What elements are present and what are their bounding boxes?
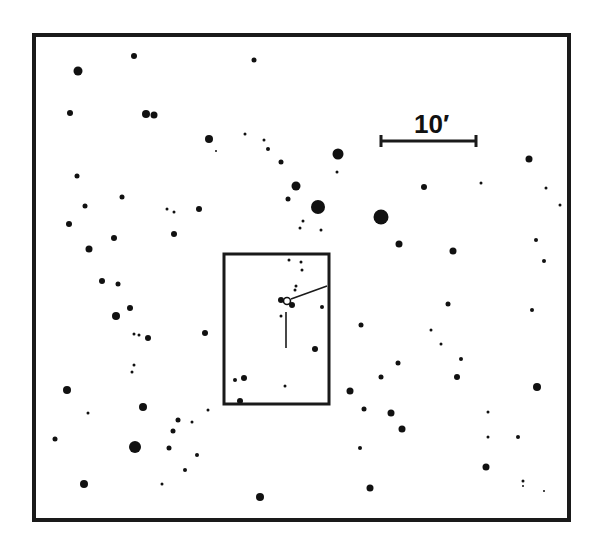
inset-box	[224, 254, 329, 404]
star-icon	[112, 312, 120, 320]
star-icon	[301, 269, 304, 272]
star-icon	[133, 333, 136, 336]
star-icon	[480, 182, 483, 185]
star-icon	[374, 210, 389, 225]
star-icon	[207, 409, 210, 412]
star-icon	[80, 480, 88, 488]
star-icon	[131, 371, 134, 374]
star-icon	[205, 135, 213, 143]
star-icon	[440, 343, 443, 346]
star-field	[53, 53, 562, 501]
star-icon	[459, 357, 463, 361]
star-icon	[379, 375, 384, 380]
star-icon	[53, 437, 58, 442]
finder-chart: 10′	[0, 0, 595, 555]
star-icon	[279, 160, 284, 165]
star-icon	[542, 259, 546, 263]
star-icon	[399, 426, 406, 433]
star-icon	[151, 112, 158, 119]
star-icon	[530, 308, 534, 312]
star-icon	[111, 235, 117, 241]
star-icon	[347, 388, 354, 395]
chart-frame	[34, 35, 569, 520]
star-icon	[241, 375, 247, 381]
star-icon	[396, 241, 403, 248]
star-icon	[176, 418, 181, 423]
star-icon	[215, 150, 217, 152]
star-icon	[280, 315, 283, 318]
star-icon	[450, 248, 457, 255]
star-icon	[288, 259, 291, 262]
target-marker-icon	[284, 298, 291, 305]
star-icon	[171, 429, 176, 434]
star-icon	[66, 221, 72, 227]
star-icon	[446, 302, 451, 307]
star-icon	[526, 156, 533, 163]
star-icon	[83, 204, 88, 209]
star-icon	[286, 197, 291, 202]
star-icon	[133, 364, 136, 367]
star-icon	[120, 195, 125, 200]
star-icon	[333, 149, 344, 160]
star-icon	[534, 238, 538, 242]
star-icon	[522, 485, 524, 487]
star-icon	[483, 464, 490, 471]
star-icon	[167, 446, 172, 451]
scale-bar-label: 10′	[414, 109, 449, 139]
star-icon	[183, 468, 187, 472]
star-icon	[266, 147, 270, 151]
star-icon	[129, 441, 141, 453]
star-icon	[161, 483, 164, 486]
star-icon	[302, 220, 305, 223]
star-icon	[362, 407, 367, 412]
star-icon	[487, 436, 490, 439]
scale-bar: 10′	[381, 109, 476, 147]
star-icon	[430, 329, 433, 332]
star-icon	[559, 204, 562, 207]
star-icon	[171, 231, 177, 237]
star-icon	[543, 490, 545, 492]
star-icon	[87, 412, 90, 415]
star-icon	[63, 386, 71, 394]
star-icon	[299, 227, 302, 230]
star-icon	[292, 182, 301, 191]
star-icon	[358, 446, 362, 450]
star-icon	[139, 403, 147, 411]
star-icon	[312, 346, 318, 352]
star-icon	[421, 184, 427, 190]
star-icon	[516, 435, 520, 439]
star-icon	[545, 187, 548, 190]
star-icon	[359, 323, 364, 328]
star-icon	[295, 285, 298, 288]
star-icon	[263, 139, 266, 142]
star-icon	[191, 421, 194, 424]
star-icon	[86, 246, 93, 253]
star-icon	[367, 485, 374, 492]
star-icon	[284, 385, 287, 388]
star-icon	[244, 133, 247, 136]
star-icon	[145, 335, 151, 341]
star-icon	[233, 378, 237, 382]
star-icon	[202, 330, 208, 336]
star-icon	[300, 261, 303, 264]
star-icon	[454, 374, 460, 380]
star-icon	[388, 410, 395, 417]
star-icon	[142, 110, 150, 118]
star-icon	[99, 278, 105, 284]
star-icon	[533, 383, 541, 391]
star-icon	[294, 289, 297, 292]
star-icon	[116, 282, 121, 287]
star-icon	[252, 58, 257, 63]
star-icon	[487, 411, 490, 414]
star-icon	[320, 229, 323, 232]
star-icon	[75, 174, 80, 179]
star-icon	[173, 211, 176, 214]
star-icon	[67, 110, 73, 116]
star-icon	[138, 334, 141, 337]
star-icon	[166, 208, 169, 211]
star-icon	[311, 200, 325, 214]
star-icon	[336, 171, 339, 174]
star-icon	[396, 361, 401, 366]
star-icon	[522, 480, 525, 483]
star-icon	[196, 206, 202, 212]
